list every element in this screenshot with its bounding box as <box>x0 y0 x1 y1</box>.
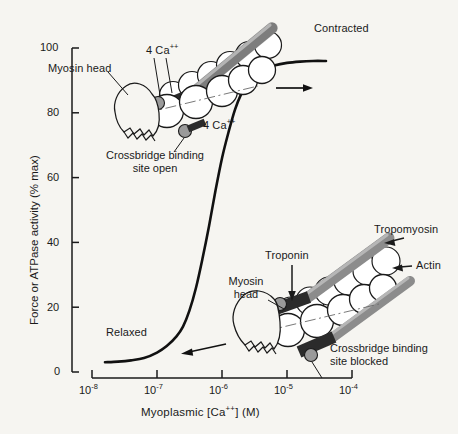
y-tick-label-40: 40 <box>47 236 59 248</box>
y-tick-label-80: 80 <box>47 106 59 118</box>
x-tick-label-1e-4: 10-4 <box>339 384 358 396</box>
y-tick-label-0: 0 <box>54 365 60 377</box>
crossbridge-open-line2: site open <box>133 162 178 174</box>
label-ca-lower: 4 Ca++ <box>203 119 236 131</box>
y-tick-label-20: 20 <box>47 301 59 313</box>
label-actin: Actin <box>416 259 441 271</box>
y-tick-label-60: 60 <box>47 171 59 183</box>
binding-site-lower-2 <box>305 349 318 362</box>
myosin-head-lower-line2: head <box>234 288 258 300</box>
y-tick-label-100: 100 <box>40 41 58 53</box>
x-tick-label-1e-7: 10-7 <box>144 384 163 396</box>
annotation-contracted: Contracted <box>314 22 369 34</box>
x-tick-label-1e-5: 10-5 <box>274 384 293 396</box>
x-tick-label-1e-8: 10-8 <box>79 384 98 396</box>
crossbridge-blocked-line1: Crossbridge binding <box>330 342 428 354</box>
label-ca-upper: 4 Ca++ <box>146 44 179 56</box>
label-troponin: Troponin <box>265 249 309 261</box>
x-tick-label-1e-6: 10-6 <box>209 384 228 396</box>
crossbridge-open-line1: Crossbridge binding <box>106 149 204 161</box>
label-crossbridge-open: Crossbridge binding site open <box>96 149 214 175</box>
label-myosin-head-lower: Myosin head <box>219 275 273 301</box>
annotation-relaxed: Relaxed <box>106 326 147 338</box>
x-axis-title: Myoplasmic [Ca++] (M) <box>141 406 260 418</box>
myosin-head-lower-line1: Myosin <box>229 275 264 287</box>
label-myosin-head-upper: Myosin head <box>48 62 111 74</box>
y-axis-title: Force or ATPase activity (% max) <box>28 155 40 325</box>
label-crossbridge-blocked: Crossbridge binding site blocked <box>330 342 452 368</box>
crossbridge-blocked-line2: site blocked <box>330 355 388 367</box>
label-tropomyosin: Tropomyosin <box>374 223 438 235</box>
